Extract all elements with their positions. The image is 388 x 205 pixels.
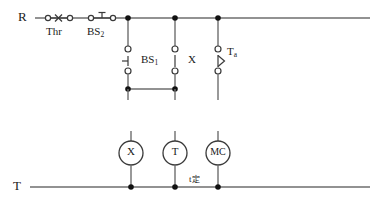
junction-dot-coil-t	[172, 184, 178, 190]
branch-drop-lines	[128, 18, 218, 46]
x-contact[interactable]	[172, 46, 178, 74]
bs1-terminal-top	[125, 46, 131, 52]
label-thr: Thr	[46, 26, 62, 37]
label-ta: Ta	[227, 46, 237, 58]
thr-contact[interactable]	[45, 15, 72, 22]
ta-delay-arrow-icon	[218, 56, 225, 67]
x-contact-terminal-top	[172, 46, 178, 52]
bs2-terminal-right	[110, 15, 115, 20]
coil-label-mc: MC	[205, 147, 231, 157]
junction-dot-x	[172, 15, 178, 21]
bs2-terminal-left	[88, 15, 93, 20]
ta-terminal-bottom	[215, 68, 221, 74]
junction-dot-coil-mc	[215, 184, 221, 190]
label-bs1: BS1	[141, 54, 158, 66]
annotation-time-setting: t定	[189, 175, 200, 184]
label-bs2: BS2	[87, 26, 104, 38]
coil-feed-leads	[131, 131, 218, 141]
thr-terminal-right	[67, 15, 72, 20]
coil-label-x: X	[119, 146, 143, 157]
ta-terminal-top	[215, 46, 221, 52]
bs1-pushbutton[interactable]	[122, 46, 131, 74]
junction-dot-bs1	[125, 15, 131, 21]
rail-label-r: R	[18, 10, 27, 23]
bs2-pushbutton[interactable]	[88, 13, 115, 21]
label-ta-sub: a	[234, 50, 237, 59]
label-bs1-sub: 1	[154, 58, 158, 67]
x-contact-terminal-bottom	[172, 68, 178, 74]
bs1-terminal-bottom	[125, 68, 131, 74]
junction-dot-ta	[215, 15, 221, 21]
ta-timer-contact[interactable]	[215, 46, 225, 74]
label-ta-text: T	[227, 45, 234, 57]
junction-dot-coil-x	[128, 184, 134, 190]
label-bs1-text: BS	[141, 53, 154, 65]
label-bs2-text: BS	[87, 25, 100, 37]
coil-label-t: T	[163, 146, 187, 157]
rail-label-t: T	[13, 179, 21, 192]
thr-terminal-left	[45, 15, 50, 20]
circuit-diagram: R T Thr BS2 BS1 X Ta X T MC t定	[0, 0, 388, 205]
label-x-contact: X	[188, 54, 196, 65]
annotation-time-cjk: 定	[192, 175, 200, 184]
label-bs2-sub: 2	[100, 30, 104, 39]
